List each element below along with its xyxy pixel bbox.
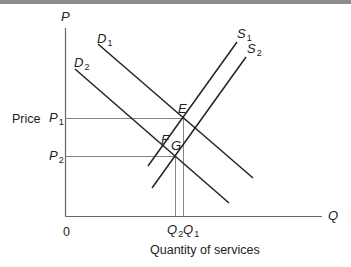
x-axis-label: Q (328, 209, 338, 222)
price-axis-title: Price (12, 113, 40, 126)
demand-curve-d2 (75, 69, 229, 203)
s1-label: S1 (237, 27, 252, 40)
origin-label: 0 (63, 226, 70, 239)
supply-curve-s1 (148, 42, 237, 166)
point-g-label: G (171, 139, 181, 152)
p2-label: P2 (49, 149, 64, 162)
supply-curve-s2 (152, 57, 246, 188)
p1-label: P1 (49, 111, 64, 124)
s2-label: S2 (247, 42, 262, 55)
d2-label: D2 (74, 56, 89, 69)
d1-label: D1 (97, 32, 112, 45)
supply-demand-diagram: P Q 0 Price Quantity of services D1 D2 S… (0, 0, 351, 267)
quantity-axis-title: Quantity of services (150, 244, 260, 257)
point-e-label: E (178, 102, 187, 115)
q2-label: Q2 (167, 223, 183, 236)
q1-label: Q1 (183, 223, 199, 236)
y-axis-label: P (61, 10, 70, 23)
point-f-label: F (161, 133, 169, 146)
